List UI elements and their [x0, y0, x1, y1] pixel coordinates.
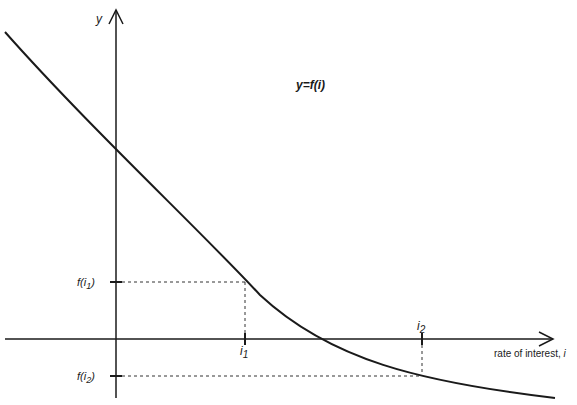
y-axis: [109, 10, 123, 398]
y-axis-label: y: [95, 12, 103, 26]
i2-label: i2: [417, 319, 426, 335]
x-axis-label: rate of interest, i: [494, 348, 566, 359]
f-i2-label: f(i2): [77, 370, 95, 385]
f-i1-label: f(i1): [77, 276, 95, 291]
diagram-canvas: y y=f(i) f(i1) f(i2) i1 i2 rate of inter…: [0, 0, 577, 405]
i1-label: i1: [240, 344, 248, 360]
function-curve: [5, 32, 555, 398]
function-label: y=f(i): [295, 78, 325, 92]
x-axis: [5, 332, 553, 346]
